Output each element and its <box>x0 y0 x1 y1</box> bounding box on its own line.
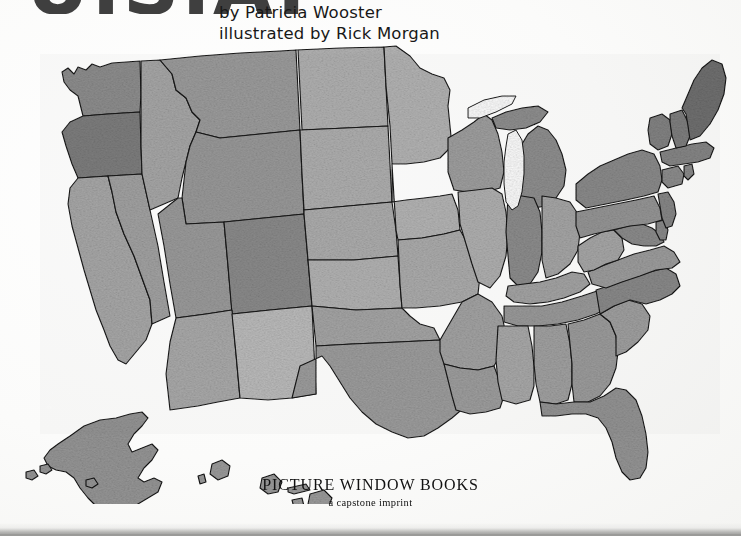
publisher-imprint: PICTURE WINDOW BOOKS a capstone imprint <box>0 476 741 510</box>
book-title-page: U.S.A. by Patricia Wooster illustrated b… <box>0 0 741 536</box>
publisher-tagline: a capstone imprint <box>0 496 741 510</box>
united-states-map <box>0 34 741 504</box>
map-speckle-overlay <box>40 54 720 434</box>
publisher-name: PICTURE WINDOW BOOKS <box>0 476 741 494</box>
us-map-svg <box>0 34 741 504</box>
author-line: by Patricia Wooster <box>219 2 440 23</box>
